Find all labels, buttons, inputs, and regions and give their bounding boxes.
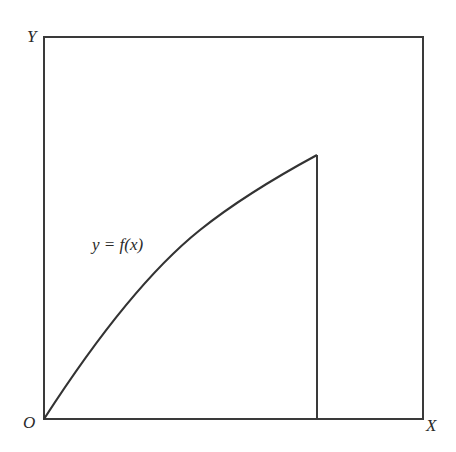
diagram-canvas: Y X O y = f(x) — [0, 0, 456, 452]
frame-box — [44, 37, 423, 419]
origin-label: O — [23, 413, 35, 432]
curve-label: y = f(x) — [90, 235, 143, 254]
curve-f — [44, 155, 317, 419]
axis-x-label: X — [425, 416, 437, 435]
axis-y-label: Y — [27, 27, 38, 46]
